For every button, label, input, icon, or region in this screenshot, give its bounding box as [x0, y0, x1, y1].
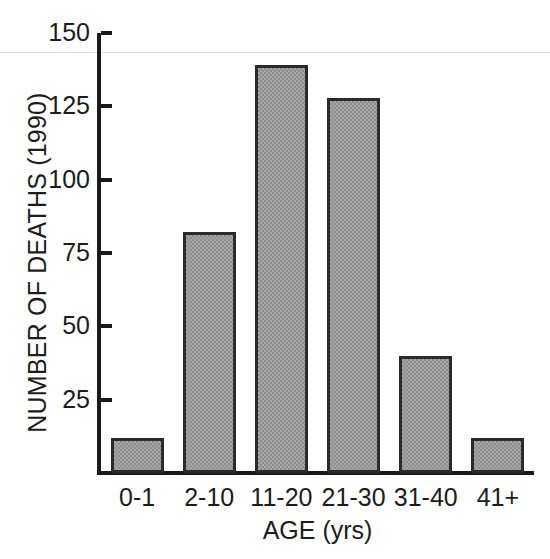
y-axis-tick-label: 150: [28, 20, 90, 45]
x-axis-tick-label: 31-40: [390, 482, 462, 512]
y-axis-tick-label: 125: [28, 93, 90, 118]
y-axis-tick-labels: 255075100125150: [28, 0, 90, 559]
x-axis-tick-labels: 0-12-1011-2021-3031-4041+: [101, 482, 534, 514]
bar: [255, 65, 308, 473]
bar: [327, 98, 380, 473]
y-axis-tick-label: 100: [28, 167, 90, 192]
x-axis-tick-label: 11-20: [245, 482, 317, 512]
y-axis-tick-label: 25: [28, 387, 90, 412]
x-axis-tick-label: 21-30: [318, 482, 390, 512]
plot-area: [101, 33, 534, 473]
y-axis-tick-label: 50: [28, 313, 90, 338]
bar: [183, 232, 236, 473]
bar: [399, 356, 452, 473]
bar: [471, 438, 524, 473]
x-axis-tick-label: 41+: [462, 482, 534, 512]
x-axis-title: AGE (yrs): [101, 516, 534, 545]
x-axis-tick-label: 2-10: [173, 482, 245, 512]
bar-chart: NUMBER OF DEATHS (1990) 255075100125150 …: [0, 0, 550, 559]
bar: [111, 438, 164, 473]
y-axis-tick-label: 75: [28, 240, 90, 265]
x-axis-tick-label: 0-1: [101, 482, 173, 512]
